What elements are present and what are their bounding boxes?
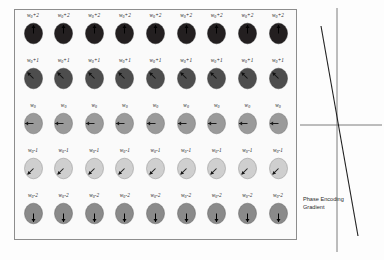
spin-cell: w0+1 xyxy=(18,57,48,102)
spin-frequency-label: w0+2 xyxy=(202,12,232,21)
spin-cell: w0+1 xyxy=(263,57,293,102)
spin-frequency-label: w0-2 xyxy=(171,192,201,201)
spin-frequency-label: w0 xyxy=(18,102,48,111)
spin-vector-disc xyxy=(206,67,227,90)
spin-vector-disc xyxy=(145,112,166,135)
spin-cell: w0-2 xyxy=(49,192,79,237)
spin-frequency-label: w0+1 xyxy=(202,57,232,66)
spin-frequency-label: w0-2 xyxy=(18,192,48,201)
spin-vector-disc xyxy=(53,22,74,45)
spin-frequency-label: w0+2 xyxy=(110,12,140,21)
spin-cell: w0-2 xyxy=(141,192,171,237)
spin-vector-disc xyxy=(23,22,44,45)
spin-frequency-label: w0-1 xyxy=(18,147,48,156)
spin-cell: w0+1 xyxy=(79,57,109,102)
spin-cell: w0+2 xyxy=(79,12,109,57)
spin-vector-disc xyxy=(237,202,258,225)
spin-frequency-label: w0+1 xyxy=(18,57,48,66)
spin-vector-disc xyxy=(237,67,258,90)
spin-frequency-label: w0+2 xyxy=(263,12,293,21)
spin-cell: w0-1 xyxy=(263,147,293,192)
spin-row: w0-2w0-2w0-2w0-2w0-2w0-2w0-2w0-2w0-2 xyxy=(15,192,296,237)
spin-frequency-label: w0+2 xyxy=(171,12,201,21)
spin-frequency-label: w0-2 xyxy=(49,192,79,201)
spin-frequency-label: w0+1 xyxy=(110,57,140,66)
spin-row: w0-1w0-1w0-1w0-1w0-1w0-1w0-1w0-1w0-1 xyxy=(15,147,296,192)
gradient-caption: Phase Encoding Gradient xyxy=(303,196,365,211)
spin-cell: w0+2 xyxy=(171,12,201,57)
spin-vector-disc xyxy=(176,202,197,225)
spin-cell: w0 xyxy=(141,102,171,147)
spin-frequency-label: w0+1 xyxy=(49,57,79,66)
spin-frequency-label: w0-2 xyxy=(232,192,262,201)
spin-frequency-label: w0-1 xyxy=(141,147,171,156)
spin-frequency-label: w0-1 xyxy=(263,147,293,156)
spin-vector-disc xyxy=(206,157,227,180)
spin-frequency-label: w0-1 xyxy=(171,147,201,156)
spin-cell: w0 xyxy=(232,102,262,147)
spin-row: w0+2w0+2w0+2w0+2w0+2w0+2w0+2w0+2w0+2 xyxy=(15,12,296,57)
spin-frequency-label: w0+1 xyxy=(232,57,262,66)
spin-frequency-label: w0 xyxy=(79,102,109,111)
spin-frequency-label: w0 xyxy=(110,102,140,111)
spin-vector-disc xyxy=(268,22,289,45)
spin-cell: w0+2 xyxy=(263,12,293,57)
spin-frequency-label: w0+2 xyxy=(49,12,79,21)
spin-vector-disc xyxy=(206,22,227,45)
spin-vector-disc xyxy=(53,202,74,225)
spin-vector-disc xyxy=(114,112,135,135)
spin-vector-disc xyxy=(268,112,289,135)
spin-grid-panel: w0+2w0+2w0+2w0+2w0+2w0+2w0+2w0+2w0+2w0+1… xyxy=(14,9,297,240)
spin-frequency-label: w0-2 xyxy=(110,192,140,201)
spin-vector-disc xyxy=(23,67,44,90)
spin-cell: w0-1 xyxy=(232,147,262,192)
gradient-caption-line1: Phase Encoding xyxy=(303,196,365,204)
spin-vector-disc xyxy=(145,157,166,180)
spin-vector-disc xyxy=(268,157,289,180)
spin-frequency-label: w0-1 xyxy=(232,147,262,156)
spin-vector-disc xyxy=(84,22,105,45)
spin-cell: w0+2 xyxy=(49,12,79,57)
spin-frequency-label: w0-2 xyxy=(202,192,232,201)
spin-cell: w0-2 xyxy=(232,192,262,237)
spin-frequency-label: w0-2 xyxy=(141,192,171,201)
spin-frequency-label: w0 xyxy=(202,102,232,111)
spin-frequency-label: w0+1 xyxy=(263,57,293,66)
spin-cell: w0-2 xyxy=(202,192,232,237)
spin-frequency-label: w0-2 xyxy=(79,192,109,201)
spin-vector-disc xyxy=(23,202,44,225)
spin-vector-disc xyxy=(114,67,135,90)
spin-cell: w0+2 xyxy=(232,12,262,57)
spin-vector-disc xyxy=(23,157,44,180)
spin-vector-disc xyxy=(84,67,105,90)
spin-cell: w0-1 xyxy=(171,147,201,192)
spin-cell: w0+1 xyxy=(171,57,201,102)
spin-cell: w0+1 xyxy=(141,57,171,102)
spin-cell: w0+1 xyxy=(202,57,232,102)
spin-frequency-label: w0-1 xyxy=(49,147,79,156)
spin-frequency-label: w0 xyxy=(232,102,262,111)
spin-frequency-label: w0-1 xyxy=(202,147,232,156)
spin-cell: w0-1 xyxy=(18,147,48,192)
spin-cell: w0-2 xyxy=(263,192,293,237)
spin-vector-disc xyxy=(176,112,197,135)
spin-row: w0+1w0+1w0+1w0+1w0+1w0+1w0+1w0+1w0+1 xyxy=(15,57,296,102)
spin-vector-disc xyxy=(237,157,258,180)
spin-cell: w0-1 xyxy=(110,147,140,192)
spin-cell: w0-2 xyxy=(79,192,109,237)
spin-vector-disc xyxy=(114,157,135,180)
spin-cell: w0+2 xyxy=(202,12,232,57)
spin-frequency-label: w0 xyxy=(49,102,79,111)
spin-vector-disc xyxy=(237,22,258,45)
spin-vector-disc xyxy=(176,157,197,180)
spin-frequency-label: w0-1 xyxy=(110,147,140,156)
spin-cell: w0 xyxy=(49,102,79,147)
spin-frequency-label: w0 xyxy=(141,102,171,111)
spin-vector-disc xyxy=(84,157,105,180)
spin-cell: w0-1 xyxy=(202,147,232,192)
spin-vector-disc xyxy=(176,22,197,45)
spin-vector-disc xyxy=(206,112,227,135)
spin-vector-disc xyxy=(114,202,135,225)
spin-cell: w0-1 xyxy=(49,147,79,192)
spin-frequency-label: w0-1 xyxy=(79,147,109,156)
